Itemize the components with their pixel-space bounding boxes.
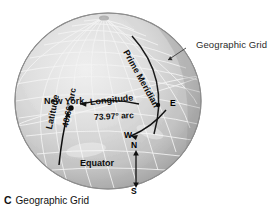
compass-west-label: W — [124, 130, 132, 140]
compass-east-label: E — [170, 98, 176, 108]
compass-south-label: S — [131, 186, 137, 196]
globe-illustration — [0, 0, 274, 213]
geographic-grid-callout-label: Geographic Grid — [196, 39, 267, 50]
figure-caption: CGeographic Grid — [4, 194, 89, 206]
longitude-arc-value: 73.97° arc — [94, 110, 134, 122]
equator-label: Equator — [80, 158, 114, 168]
geographic-grid-figure: Geographic Grid New York Longitude 73.97… — [0, 0, 274, 213]
compass-north-label: N — [131, 140, 137, 150]
figure-caption-text: Geographic Grid — [16, 195, 89, 206]
figure-caption-letter: C — [4, 194, 12, 206]
north-pole-marker — [99, 15, 109, 20]
